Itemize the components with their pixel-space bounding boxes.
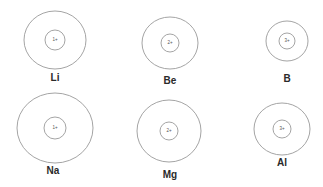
element-symbol: Na: [47, 166, 60, 176]
nucleus-charge: 2+: [166, 129, 171, 134]
element-symbol: B: [283, 74, 290, 84]
atom-shells-canvas: [0, 0, 323, 187]
element-symbol: Li: [51, 73, 60, 83]
element-symbol: Mg: [163, 170, 177, 180]
nucleus-charge: 3+: [279, 127, 284, 132]
element-symbol: Al: [277, 158, 287, 168]
ion-diagram: 1+Li2+Be3+B1+Na2+Mg3+Al: [0, 0, 323, 187]
nucleus-charge: 1+: [52, 38, 57, 43]
nucleus-charge: 3+: [284, 39, 289, 44]
element-symbol: Be: [164, 76, 177, 86]
nucleus-charge: 2+: [167, 41, 172, 46]
nucleus-charge: 1+: [52, 126, 57, 131]
